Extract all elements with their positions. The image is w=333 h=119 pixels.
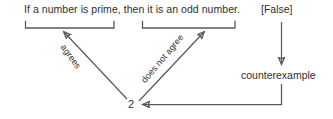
logic-diagram-canvas: If a number is prime, then it is an odd … [0,0,333,119]
conclusion-bracket [143,22,236,29]
diagram-connectors [0,0,333,119]
does-not-agree-arrow [139,32,204,101]
hypothesis-bracket [26,22,115,29]
counterexample-to-two-arrow [143,84,282,105]
agrees-arrow [64,32,127,99]
